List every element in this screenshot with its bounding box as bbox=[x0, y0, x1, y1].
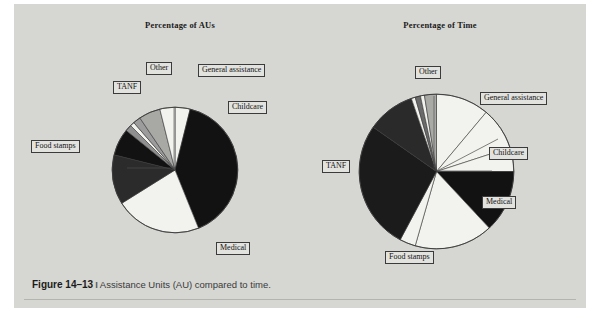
label-other-left[interactable]: Other bbox=[146, 62, 172, 75]
label-other-right[interactable]: Other bbox=[415, 66, 441, 79]
label-childcare-left[interactable]: Childcare bbox=[228, 101, 267, 114]
pie-chart-percentage-of-time bbox=[358, 93, 515, 250]
caption-rule bbox=[24, 299, 576, 300]
label-tanf-left[interactable]: TANF bbox=[113, 81, 141, 94]
caption-separator: I bbox=[93, 279, 100, 290]
pie-chart-percentage-of-aus bbox=[111, 106, 239, 234]
label-medical-right[interactable]: Medical bbox=[482, 196, 516, 209]
label-tanf-right[interactable]: TANF bbox=[322, 160, 350, 173]
figure-page: Percentage of AUs Percentage of Time Oth… bbox=[0, 0, 600, 332]
pie-right-svg bbox=[358, 93, 515, 250]
chart-title-percentage-of-time: Percentage of Time bbox=[370, 20, 510, 30]
chart-title-percentage-of-aus: Percentage of AUs bbox=[110, 20, 250, 30]
label-medical-left[interactable]: Medical bbox=[216, 242, 250, 255]
label-general-assistance-right[interactable]: General assistance bbox=[480, 92, 547, 105]
label-food-stamps-left[interactable]: Food stamps bbox=[31, 140, 80, 153]
label-food-stamps-right[interactable]: Food stamps bbox=[385, 251, 434, 264]
label-childcare-right[interactable]: Childcare bbox=[489, 147, 528, 160]
figure-number: Figure 14–13 bbox=[32, 279, 93, 290]
pie-left-svg bbox=[111, 106, 239, 234]
figure-caption: Figure 14–13IAssistance Units (AU) compa… bbox=[32, 279, 271, 290]
caption-text: Assistance Units (AU) compared to time. bbox=[100, 279, 271, 290]
label-general-assistance-left[interactable]: General assistance bbox=[198, 64, 265, 77]
